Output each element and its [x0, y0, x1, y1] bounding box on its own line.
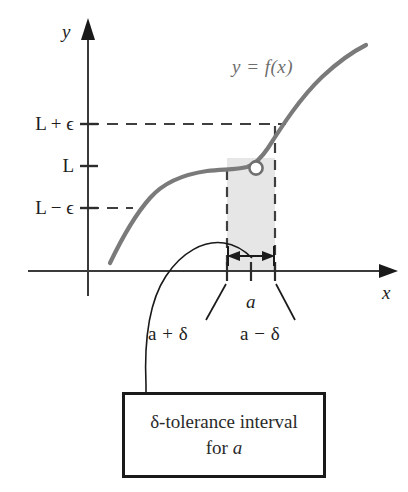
x-tick-label-a-plus-delta: a + δ: [148, 324, 188, 343]
y-axis-label: y: [62, 22, 70, 41]
y-tick-label-L-minus-epsilon: L − ϵ: [0, 198, 74, 217]
callout-line-2: for a: [206, 435, 242, 461]
y-tick-label-L: L: [0, 156, 74, 175]
leader-a-plus-delta: [206, 284, 226, 320]
callout-line-2-prefix: for: [206, 437, 233, 458]
x-tick-label-a-minus-delta: a − δ: [240, 324, 280, 343]
callout-box: δ-tolerance interval for a: [122, 392, 326, 478]
callout-line-2-variable: a: [233, 437, 243, 458]
callout-line-1: δ-tolerance interval: [150, 409, 298, 435]
open-circle-discontinuity: [249, 161, 262, 174]
x-tick-label-a: a: [246, 292, 256, 311]
x-axis-arrowhead: [379, 264, 398, 278]
curve-label: y = f(x): [232, 57, 293, 76]
y-tick-label-L-plus-epsilon: L + ϵ: [0, 114, 74, 133]
x-axis-label: x: [382, 283, 390, 302]
leader-a-minus-delta: [276, 284, 295, 320]
y-axis-arrowhead: [81, 18, 95, 40]
figure-root: y x y = f(x) L + ϵ L L − ϵ a + δ a a − δ…: [0, 0, 408, 492]
